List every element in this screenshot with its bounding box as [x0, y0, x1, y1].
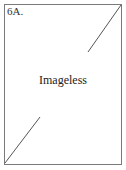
imageless-text: Imageless: [0, 73, 126, 87]
figure-label: 6A.: [7, 5, 23, 17]
